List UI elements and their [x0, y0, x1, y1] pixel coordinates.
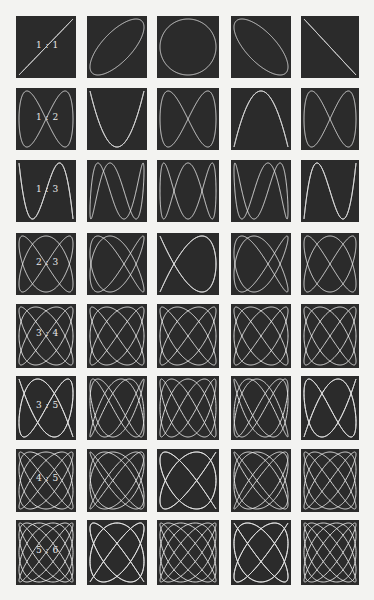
- lissajous-panel: 1 : 3: [16, 160, 76, 222]
- lissajous-panel: [157, 16, 219, 78]
- ratio-label: 1 : 1: [36, 40, 59, 50]
- ratio-label: 1 : 3: [36, 184, 59, 194]
- lissajous-curve-icon: [301, 233, 359, 295]
- lissajous-curve-icon: [157, 16, 219, 78]
- lissajous-panel: [231, 376, 291, 440]
- lissajous-panel: [231, 449, 291, 512]
- lissajous-curve-icon: [231, 449, 291, 512]
- lissajous-curve-icon: [301, 304, 359, 368]
- lissajous-panel: [87, 376, 147, 440]
- lissajous-panel: [87, 449, 147, 512]
- lissajous-panel: [157, 233, 219, 295]
- lissajous-panel: [231, 304, 291, 368]
- lissajous-curve-icon: [87, 376, 147, 440]
- lissajous-panel: [301, 16, 359, 78]
- lissajous-curve-icon: [87, 16, 147, 78]
- lissajous-panel: 3 : 4: [16, 304, 76, 368]
- lissajous-curve-icon: [87, 233, 147, 295]
- lissajous-panel: [301, 304, 359, 368]
- lissajous-curve-icon: [301, 520, 359, 585]
- lissajous-panel: [87, 304, 147, 368]
- lissajous-panel: [157, 520, 219, 585]
- lissajous-panel: [157, 376, 219, 440]
- lissajous-panel: [87, 88, 147, 150]
- lissajous-curve-icon: [301, 88, 359, 150]
- lissajous-panel: [87, 16, 147, 78]
- lissajous-panel: [301, 449, 359, 512]
- lissajous-panel: [301, 233, 359, 295]
- lissajous-curve-icon: [87, 304, 147, 368]
- lissajous-panel: [157, 449, 219, 512]
- lissajous-panel: [301, 520, 359, 585]
- lissajous-curve-icon: [231, 376, 291, 440]
- lissajous-curve-icon: [301, 449, 359, 512]
- lissajous-curve-icon: [231, 160, 291, 222]
- ratio-label: 1 : 2: [36, 112, 59, 122]
- lissajous-panel: 1 : 1: [16, 16, 76, 78]
- lissajous-curve-icon: [231, 16, 291, 78]
- lissajous-panel: 5 : 6: [16, 520, 76, 585]
- lissajous-curve-icon: [301, 160, 359, 222]
- lissajous-curve-icon: [157, 160, 219, 222]
- ratio-label: 5 : 6: [36, 545, 59, 555]
- lissajous-panel: [157, 160, 219, 222]
- ratio-label: 3 : 4: [36, 328, 59, 338]
- lissajous-panel: [87, 233, 147, 295]
- lissajous-panel: [301, 160, 359, 222]
- lissajous-panel: [157, 304, 219, 368]
- lissajous-panel: [231, 160, 291, 222]
- lissajous-panel: 4 : 5: [16, 449, 76, 512]
- lissajous-curve-icon: [87, 160, 147, 222]
- lissajous-curve-icon: [157, 449, 219, 512]
- lissajous-panel: [301, 376, 359, 440]
- lissajous-curve-icon: [87, 520, 147, 585]
- ratio-label: 4 : 5: [36, 473, 59, 483]
- lissajous-panel: [231, 233, 291, 295]
- lissajous-panel: 2 : 3: [16, 233, 76, 295]
- lissajous-panel: [301, 88, 359, 150]
- ratio-label: 2 : 3: [36, 257, 59, 267]
- lissajous-curve-icon: [157, 520, 219, 585]
- lissajous-curve-icon: [157, 376, 219, 440]
- lissajous-curve-icon: [157, 88, 219, 150]
- lissajous-curve-icon: [301, 16, 359, 78]
- lissajous-curve-icon: [157, 304, 219, 368]
- lissajous-panel: [87, 520, 147, 585]
- lissajous-curve-icon: [87, 449, 147, 512]
- lissajous-curve-icon: [231, 304, 291, 368]
- lissajous-panel: 3 : 5: [16, 376, 76, 440]
- lissajous-panel: [231, 88, 291, 150]
- lissajous-panel: [231, 520, 291, 585]
- lissajous-curve-icon: [301, 376, 359, 440]
- lissajous-panel: 1 : 2: [16, 88, 76, 150]
- lissajous-curve-icon: [231, 233, 291, 295]
- lissajous-panel: [87, 160, 147, 222]
- lissajous-curve-icon: [231, 520, 291, 585]
- lissajous-curve-icon: [157, 233, 219, 295]
- lissajous-curve-icon: [87, 88, 147, 150]
- lissajous-panel: [231, 16, 291, 78]
- lissajous-curve-icon: [231, 88, 291, 150]
- ratio-label: 3 : 5: [36, 400, 59, 410]
- lissajous-panel: [157, 88, 219, 150]
